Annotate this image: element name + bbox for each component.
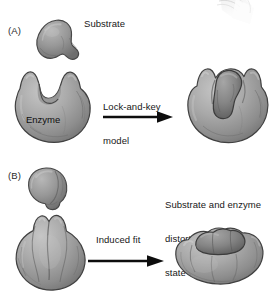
panel-b-substrate-shape	[22, 166, 76, 218]
scan-artifact-icon	[206, 0, 278, 34]
panel-b-enzyme-shape	[6, 212, 94, 294]
panel-a-enzyme-label: Enzyme	[26, 114, 60, 125]
panel-b-letter: (B)	[8, 170, 21, 181]
enzyme-binding-models-figure: (A) Substrate Enzyme	[0, 0, 278, 295]
panel-a-model-label-line-2: model	[103, 135, 161, 146]
panel-a-complex-shape	[181, 60, 275, 150]
panel-a-arrow-icon	[103, 110, 173, 124]
panel-b-complex-shape	[168, 218, 274, 294]
panel-b-arrow-icon	[88, 254, 164, 268]
panel-b-result-label-line-1: Substrate and enzyme	[165, 199, 261, 210]
panel-a-enzyme-shape	[10, 66, 96, 148]
panel-b-model-label: Induced fit	[96, 234, 140, 245]
panel-a-substrate-label: Substrate	[84, 18, 125, 29]
panel-a-letter: (A)	[8, 25, 21, 36]
